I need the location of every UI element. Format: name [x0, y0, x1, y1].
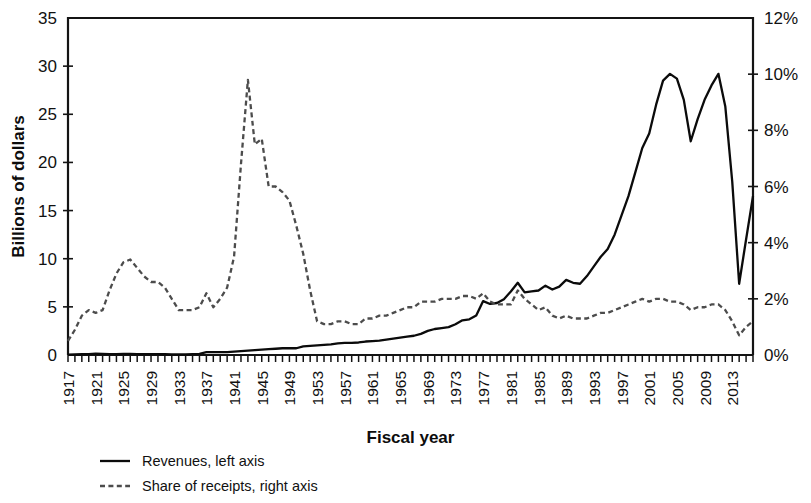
x-axis-tick-label: 1953 [309, 371, 326, 405]
plot-frame [68, 18, 753, 355]
y-axis-tick-label-right: 2% [764, 290, 789, 309]
x-axis-tick-label: 1985 [531, 371, 548, 405]
y-axis-title: Billions of dollars [9, 115, 28, 258]
x-axis-tick-label: 2001 [641, 371, 658, 405]
x-axis-tick-label: 2013 [724, 371, 741, 405]
x-axis-tick-label: 1941 [226, 371, 243, 405]
data-series-1 [68, 74, 753, 355]
x-axis-title: Fiscal year [367, 428, 455, 447]
chart-figure: 051015202530350%2%4%6%8%10%12%1917192119… [0, 0, 811, 503]
y-axis-tick-label-left: 35 [38, 9, 57, 28]
legend-label-2: Share of receipts, right axis [142, 478, 318, 494]
y-axis-tick-label-right: 4% [764, 234, 789, 253]
x-axis-tick-label: 1949 [281, 371, 298, 405]
x-axis-tick-label: 2009 [697, 371, 714, 405]
x-axis-tick-label: 1997 [614, 371, 631, 405]
data-series-2 [68, 80, 753, 341]
legend-label-1: Revenues, left axis [142, 453, 265, 469]
x-axis-tick-label: 1925 [115, 371, 132, 405]
x-axis-tick-label: 1969 [420, 371, 437, 405]
x-axis-tick-label: 1961 [364, 371, 381, 405]
y-axis-tick-label-left: 15 [38, 202, 57, 221]
y-axis-tick-label-left: 25 [38, 105, 57, 124]
y-axis-tick-label-right: 8% [764, 121, 789, 140]
legend-group: Revenues, left axisShare of receipts, ri… [100, 453, 318, 494]
x-axis-tick-label: 1921 [88, 371, 105, 405]
x-axis-tick-label: 1993 [586, 371, 603, 405]
y-axis-tick-label-left: 5 [48, 298, 57, 317]
chart-svg: 051015202530350%2%4%6%8%10%12%1917192119… [0, 0, 811, 503]
x-axis-tick-label: 1933 [171, 371, 188, 405]
series-group [68, 74, 753, 355]
x-axis-tick-label: 1937 [198, 371, 215, 405]
y-axis-tick-label-right: 6% [764, 178, 789, 197]
y-axis-tick-label-left: 20 [38, 153, 57, 172]
x-axis-tick-label: 1917 [60, 371, 77, 405]
y-axis-tick-label-left: 30 [38, 57, 57, 76]
label-group: 051015202530350%2%4%6%8%10%12%1917192119… [9, 9, 798, 447]
x-axis-tick-label: 2005 [669, 371, 686, 405]
y-axis-tick-label-left: 0 [48, 346, 57, 365]
y-axis-tick-label-right: 0% [764, 346, 789, 365]
y-axis-tick-label-right: 10% [764, 65, 798, 84]
y-axis-tick-label-right: 12% [764, 9, 798, 28]
x-axis-tick-label: 1957 [337, 371, 354, 405]
axes-group [63, 18, 758, 362]
x-axis-tick-label: 1929 [143, 371, 160, 405]
x-axis-tick-label: 1981 [503, 371, 520, 405]
x-axis-tick-label: 1973 [447, 371, 464, 405]
x-axis-tick-label: 1965 [392, 371, 409, 405]
x-axis-tick-label: 1945 [254, 371, 271, 405]
x-axis-tick-label: 1977 [475, 371, 492, 405]
x-axis-tick-label: 1989 [558, 371, 575, 405]
y-axis-tick-label-left: 10 [38, 250, 57, 269]
